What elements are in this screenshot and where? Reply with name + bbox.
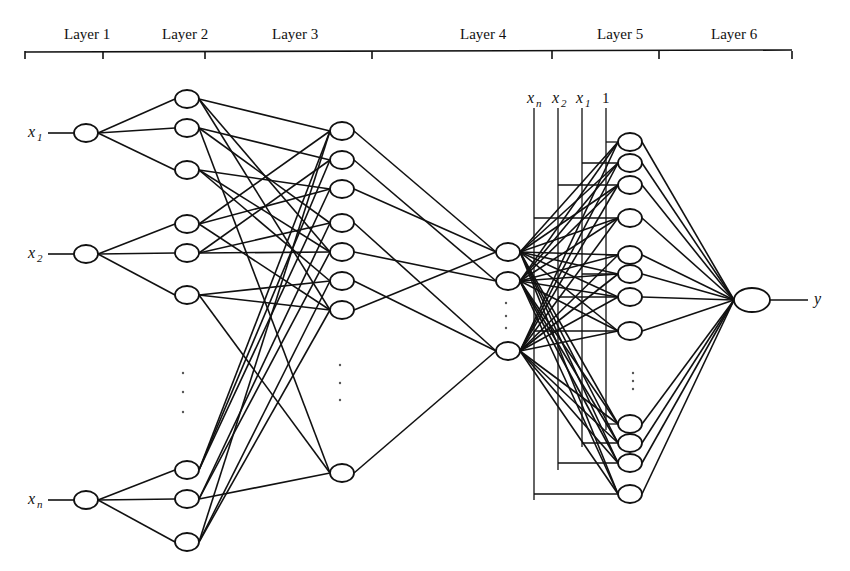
- layer1-node: [74, 245, 98, 263]
- edge-l4-l5: [520, 185, 618, 351]
- layer-label-4: Layer 4: [460, 26, 507, 42]
- edge-l2-l3: [199, 473, 330, 499]
- ellipsis-dot: [505, 315, 507, 317]
- ellipsis-dot: [182, 411, 184, 413]
- ellipsis-dot: [182, 372, 184, 374]
- layer2-node: [175, 244, 199, 262]
- layer5-node: [618, 322, 642, 340]
- edge-l5-l6: [642, 300, 734, 443]
- layer5-node: [618, 154, 642, 172]
- network-diagram-svg: Layer 1Layer 2Layer 3Layer 4Layer 5Layer…: [0, 0, 850, 571]
- layer2-node: [175, 533, 199, 551]
- layer3-node: [330, 464, 354, 482]
- edge-l2-l3: [199, 223, 330, 499]
- layer3-node: [330, 151, 354, 169]
- layer4-node: [496, 243, 520, 261]
- ellipsis-dot: [505, 327, 507, 329]
- bus-label-xn: xn: [526, 89, 542, 109]
- edge-l2-l3: [199, 281, 330, 542]
- edge-l2-l3: [199, 189, 330, 470]
- layer-label-3: Layer 3: [272, 26, 318, 42]
- layer1-node: [74, 124, 98, 142]
- layer4-node: [496, 342, 520, 360]
- layer2-node: [175, 490, 199, 508]
- ellipsis-dot: [339, 364, 341, 366]
- edge-l1-l2: [98, 470, 175, 500]
- ellipsis-dot: [339, 399, 341, 401]
- edge-l5-l6: [642, 185, 734, 300]
- ellipsis-dot: [505, 302, 507, 304]
- edge-l3-l4: [354, 281, 496, 351]
- ellipsis-dot: [632, 388, 634, 390]
- edge-l5-l6: [642, 300, 734, 331]
- layer3-node: [330, 214, 354, 232]
- edge-l2-l3: [199, 99, 330, 131]
- layer2-node: [175, 215, 199, 233]
- ellipsis-dot: [632, 372, 634, 374]
- edge-l5-l6: [642, 163, 734, 300]
- edge-l3-l4: [354, 252, 496, 281]
- edge-l5-l6: [642, 300, 734, 424]
- edge-l5-l6: [642, 300, 734, 494]
- edge-l2-l3: [199, 252, 330, 499]
- edge-l3-l4: [354, 351, 496, 473]
- edge-l4-l5: [520, 218, 618, 281]
- layer5-node: [618, 133, 642, 151]
- ellipsis-dot: [632, 380, 634, 382]
- output-node: [734, 288, 770, 312]
- layer-label-6: Layer 6: [711, 26, 758, 42]
- bus-label-x2: x2: [551, 89, 567, 109]
- connection-edges: [48, 99, 808, 542]
- layer3-node: [330, 180, 354, 198]
- edge-l5-l6: [642, 297, 734, 300]
- layer3-node: [330, 301, 354, 319]
- input-label-x2: x2: [27, 244, 43, 264]
- edge-l3-l4: [354, 252, 496, 310]
- layer1-node: [74, 491, 98, 509]
- input-label-x1: x1: [27, 123, 43, 143]
- layer4-node: [496, 272, 520, 290]
- edge-l3-l4: [354, 131, 496, 252]
- edge-l1-l2: [98, 133, 175, 170]
- layer3-node: [330, 243, 354, 261]
- bus-label-one: 1: [602, 90, 610, 106]
- layer2-node: [175, 286, 199, 304]
- edge-l2-l3: [199, 128, 330, 223]
- layer2-node: [175, 90, 199, 108]
- input-label-xn: xn: [27, 490, 43, 510]
- edge-l1-l2: [98, 99, 175, 133]
- layer2-node: [175, 161, 199, 179]
- edge-l1-l2: [98, 500, 175, 542]
- edge-l5-l6: [642, 142, 734, 300]
- layer5-node: [618, 265, 642, 283]
- edge-l1-l2: [98, 253, 175, 254]
- layer2-node: [175, 119, 199, 137]
- layer3-node: [330, 272, 354, 290]
- layer5-node: [618, 176, 642, 194]
- ellipsis-dot: [339, 382, 341, 384]
- edge-l1-l2: [98, 254, 175, 295]
- edge-l2-l3: [199, 223, 330, 253]
- layer5-node: [618, 288, 642, 306]
- ellipsis-dot: [182, 391, 184, 393]
- edge-l2-l3: [199, 252, 330, 253]
- edge-l1-l2: [98, 499, 175, 500]
- layer5-node: [618, 485, 642, 503]
- bus-label-x1: x1: [575, 89, 591, 109]
- output-label-y: y: [812, 290, 822, 308]
- edge-l1-l2: [98, 224, 175, 254]
- network-nodes: [74, 90, 770, 551]
- layer-label-2: Layer 2: [162, 26, 208, 42]
- layer-header: Layer 1Layer 2Layer 3Layer 4Layer 5Layer…: [25, 26, 792, 59]
- edge-l4-l5: [520, 351, 618, 463]
- layer5-node: [618, 434, 642, 452]
- edge-l2-l3: [199, 131, 330, 542]
- fuzzy-neural-network-diagram: Layer 1Layer 2Layer 3Layer 4Layer 5Layer…: [0, 0, 850, 571]
- layer2-node: [175, 461, 199, 479]
- layer5-node: [618, 209, 642, 227]
- layer3-node: [330, 122, 354, 140]
- layer5-node: [618, 454, 642, 472]
- layer5-node: [618, 415, 642, 433]
- layer-label-1: Layer 1: [64, 26, 110, 42]
- layer5-node: [618, 246, 642, 264]
